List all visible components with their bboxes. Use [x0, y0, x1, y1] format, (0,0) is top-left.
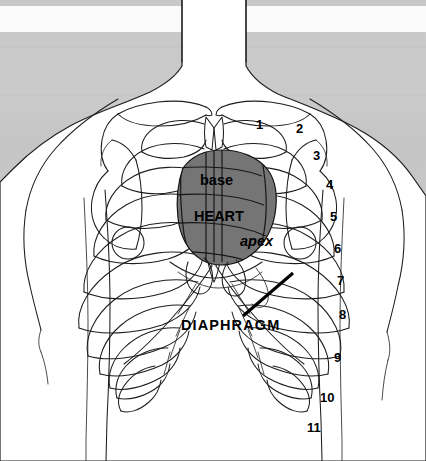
rib-number-4: 4: [326, 178, 333, 191]
heart-apex-label: apex: [240, 234, 273, 249]
rib-number-5: 5: [330, 210, 337, 223]
heart-label: HEART: [194, 209, 244, 224]
thorax-illustration: [0, 0, 426, 461]
rib-number-3: 3: [313, 149, 320, 162]
diaphragm-label: DIAPHRAGM: [181, 318, 280, 333]
anatomical-figure: base HEART apex DIAPHRAGM 1 2 3 4 5 6 7 …: [0, 0, 426, 461]
rib-number-7: 7: [337, 274, 344, 287]
rib-number-10: 10: [320, 391, 334, 404]
rib-number-8: 8: [339, 308, 346, 321]
rib-number-11: 11: [307, 421, 321, 434]
rib-number-1: 1: [256, 118, 263, 131]
rib-number-6: 6: [334, 242, 341, 255]
rib-number-9: 9: [334, 351, 341, 364]
rib-number-2: 2: [296, 122, 303, 135]
heart-base-label: base: [200, 173, 233, 188]
